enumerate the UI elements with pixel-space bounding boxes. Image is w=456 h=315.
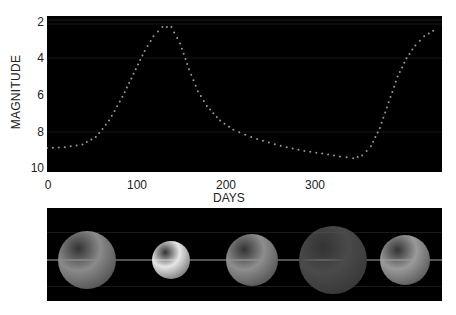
x-axis-label: DAYS: [213, 191, 245, 205]
x-tick-0: 0: [45, 178, 52, 192]
star-sphere: [299, 226, 367, 294]
star-sphere: [226, 234, 278, 286]
star-sphere: [152, 241, 190, 279]
spheres-panel: [47, 208, 442, 301]
x-tick-300: 300: [305, 178, 325, 192]
y-tick-10: 10: [28, 161, 44, 175]
y-tick-2: 2: [28, 15, 44, 29]
star-sphere: [380, 235, 430, 285]
data-points: [47, 26, 434, 159]
light-curve-plot: [47, 16, 442, 172]
y-axis-label: MAGNITUDE: [9, 52, 23, 132]
y-tick-4: 4: [28, 51, 44, 65]
faint-line: [47, 232, 442, 233]
x-tick-100: 100: [127, 178, 147, 192]
light-curve-svg: [47, 16, 442, 172]
x-tick-200: 200: [216, 178, 236, 192]
y-tick-6: 6: [28, 88, 44, 102]
star-sphere: [58, 231, 116, 289]
y-tick-8: 8: [28, 125, 44, 139]
faint-line: [47, 286, 442, 287]
